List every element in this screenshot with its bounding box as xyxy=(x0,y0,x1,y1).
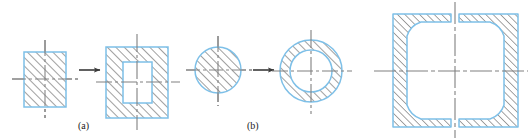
caption-b: (b) xyxy=(247,120,259,131)
caption-a: (a) xyxy=(78,120,89,131)
cross-section-transformation-figure xyxy=(0,0,531,140)
